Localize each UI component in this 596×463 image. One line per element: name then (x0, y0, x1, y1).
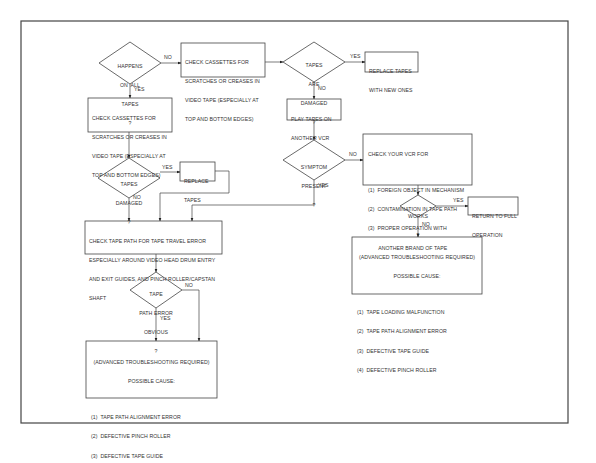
edge-label-left-damaged-no: NO (133, 194, 141, 200)
text-line: ? (289, 202, 339, 208)
result-advanced-right-text: (ADVANCED TROUBLESHOOTING REQUIRED) POSS… (352, 241, 482, 380)
text-line: REPLACE (184, 178, 209, 184)
text-line: ARE (289, 81, 339, 87)
text-line: ? (398, 232, 438, 238)
edge-label-path-yes: YES (160, 315, 170, 321)
text-line: WITH NEW ONES (369, 87, 413, 93)
text-line: (ADVANCED TROUBLESHOOTING REQUIRED) (352, 254, 482, 260)
text-line: HAPPENS (105, 63, 155, 69)
edge-label-symptom-yes: YES (318, 182, 328, 188)
decision-symptom-text: SYMPTOM PRESENT ? (289, 151, 339, 215)
text-line: (4) DEFECTIVE PINCH ROLLER (352, 367, 482, 373)
text-line: (2) TAPE PATH ALIGNMENT ERROR (352, 328, 482, 334)
process-check-cassettes-top-text: CHECK CASSETTES FOR SCRATCHES OR CREASES… (185, 46, 260, 129)
text-line: (3) DEFECTIVE TAPE GUIDE (352, 348, 482, 354)
edge-label-left-damaged-yes: YES (162, 164, 172, 170)
process-replace-new-text: REPLACE TAPES WITH NEW ONES (369, 55, 413, 100)
text-line: RETURN TO FULL (472, 213, 517, 219)
edge-label-all-no: NO (164, 54, 172, 60)
decision-works-text: WORKS ? (398, 200, 438, 245)
text-line: PRESENT (289, 183, 339, 189)
text-line: VIDEO TAPE (ESPECIALLY AT (92, 153, 167, 159)
text-line: WORKS (398, 213, 438, 219)
text-line: ANOTHER VCR (291, 135, 332, 141)
text-line: CHECK TAPE PATH FOR TAPE TRAVEL ERROR (89, 238, 215, 244)
edge-label-symptom-no: NO (349, 151, 357, 157)
text-line: CHECK YOUR VCR FOR (368, 151, 464, 157)
text-line: TAPES (104, 181, 154, 187)
process-play-another-text: PLAY TAPES ON ANOTHER VCR (291, 103, 332, 148)
text-line: PLAY TAPES ON (291, 116, 332, 122)
text-line: (1) TAPE LOADING MALFUNCTION (352, 309, 482, 315)
text-line: ON ALL (105, 82, 155, 88)
text-line: (2) DEFECTIVE PINCH ROLLER (86, 433, 217, 439)
terminal-return-text: RETURN TO FULL OPERATION (472, 200, 517, 245)
text-line: SYMPTOM (289, 164, 339, 170)
text-line: DAMAGED (104, 200, 154, 206)
text-line: SCRATCHES OR CREASES IN (92, 134, 167, 140)
result-advanced-left-text: (ADVANCED TROUBLESHOOTING REQUIRED) POSS… (86, 346, 217, 463)
text-line: (3) DEFECTIVE TAPE GUIDE (86, 453, 217, 459)
edge-label-path-no: NO (185, 282, 193, 288)
edge-label-all-yes: YES (134, 86, 144, 92)
text-line: TAPES (289, 62, 339, 68)
text-line: POSSIBLE CAUSE: (352, 273, 482, 279)
text-line: PATH ERROR (131, 310, 181, 316)
text-line: ESPECIALLY AROUND VIDEO HEAD DRUM ENTRY (89, 257, 215, 263)
text-line: CHECK CASSETTES FOR (185, 59, 260, 65)
edge-label-damaged-no: NO (318, 85, 326, 91)
edge-label-damaged-yes: YES (350, 53, 360, 59)
text-line: OPERATION (472, 232, 517, 238)
edge-label-works-yes: YES (453, 197, 463, 203)
text-line: VIDEO TAPE (ESPECIALLY AT (185, 97, 260, 103)
text-line: POSSIBLE CAUSE: (86, 378, 217, 384)
text-line: CHECK CASSETTES FOR (92, 115, 167, 121)
text-line: TAPES (184, 197, 209, 203)
edge-label-works-no: NO (422, 221, 430, 227)
process-replace-tapes-text: REPLACE TAPES (184, 165, 209, 210)
text-line: (1) FOREIGN OBJECT IN MECHANISM (368, 187, 464, 193)
decision-tapes-damaged-text: TAPES DAMAGED ? (104, 168, 154, 232)
text-line: OBVIOUS (131, 329, 181, 335)
text-line: SCRATCHES OR CREASES IN (185, 78, 260, 84)
text-line: (ADVANCED TROUBLESHOOTING REQUIRED) (86, 359, 217, 365)
text-line: REPLACE TAPES (369, 68, 413, 74)
text-line: TAPE (131, 291, 181, 297)
text-line: (1) TAPE PATH ALIGNMENT ERROR (86, 414, 217, 420)
text-line: TOP AND BOTTOM EDGES) (185, 116, 260, 122)
